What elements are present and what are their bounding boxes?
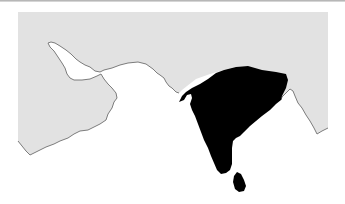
highlighted-region-sri-lanka [233, 172, 246, 192]
highlighted-region-india [179, 66, 288, 174]
south-asia-locator-map [0, 0, 345, 204]
